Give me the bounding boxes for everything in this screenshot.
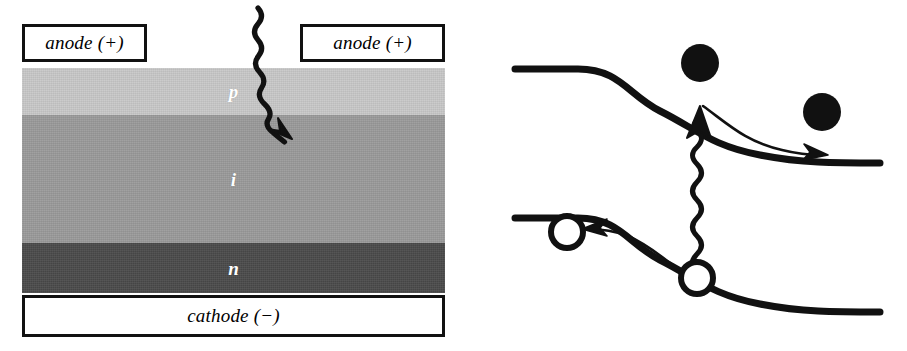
device-layer-i-label: i: [231, 170, 236, 189]
cathode-box: cathode (−): [22, 295, 445, 337]
figure-canvas: p i n anode (+) anode (+) cathode (−): [0, 0, 907, 351]
electron-drifted-icon: [803, 93, 841, 131]
energy-band-diagram-panel: [460, 0, 907, 351]
anode-right-label: anode (+): [333, 32, 411, 54]
device-cross-section-panel: p i n anode (+) anode (+) cathode (−): [0, 0, 460, 351]
energy-band-diagram-svg: [460, 0, 907, 351]
incident-photon-arrow-icon: [240, 2, 320, 150]
absorbed-photon-wave: [693, 119, 702, 272]
device-layer-n-label: n: [228, 259, 239, 278]
anode-left-label: anode (+): [45, 32, 123, 54]
electron-generated-icon: [681, 44, 719, 82]
device-layer-n: n: [22, 243, 445, 293]
anode-left-box: anode (+): [22, 24, 147, 62]
anode-right-box: anode (+): [300, 24, 445, 62]
device-layer-i: i: [22, 115, 445, 243]
hole-generated-icon: [681, 262, 713, 294]
electron-drift-arrow-icon: [803, 144, 828, 160]
hole-drifted-icon: [551, 216, 583, 248]
device-layer-p-label: p: [229, 82, 239, 101]
cathode-label: cathode (−): [187, 305, 280, 327]
device-layer-p: p: [22, 68, 445, 115]
